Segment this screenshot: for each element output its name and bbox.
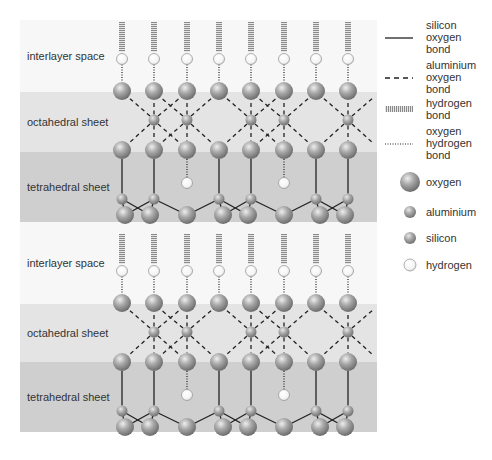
hydrogen-atom — [343, 54, 354, 65]
hydrogen-atom — [117, 54, 128, 65]
hydrogen-bond — [184, 234, 190, 264]
oxygen-atom — [178, 141, 196, 159]
legend-bond-label: hydrogen — [426, 137, 472, 149]
oxygen-atom — [178, 206, 196, 224]
oxygen-atom — [214, 418, 232, 436]
legend-bond-label: oxygen — [426, 31, 461, 43]
interlayer-label: interlayer space — [27, 50, 105, 62]
hydrogen-atom — [214, 54, 225, 65]
silicon-atom — [246, 406, 257, 417]
legend-oxygen-icon — [400, 172, 420, 192]
hydrogen-atom — [117, 266, 128, 277]
oxygen-atom — [141, 418, 159, 436]
oxygen-atom — [275, 294, 293, 312]
oxygen-atom — [307, 353, 325, 371]
clay-structure-diagram: interlayer spaceoctahedral sheettetrahed… — [0, 0, 492, 460]
octahedral-label: octahedral sheet — [27, 116, 108, 128]
oxygen-atom — [242, 141, 260, 159]
hydrogen-atom — [311, 266, 322, 277]
hydrogen-bond — [184, 22, 190, 52]
hydrogen-atom — [182, 54, 193, 65]
legend-atom-label: oxygen — [426, 176, 461, 188]
silicon-atom — [214, 406, 225, 417]
oxygen-atom — [145, 141, 163, 159]
silicon-atom — [343, 194, 354, 205]
tetrahedral-label: tetrahedral sheet — [27, 391, 110, 403]
oxygen-atom — [178, 294, 196, 312]
oxygen-atom — [113, 141, 131, 159]
oxygen-atom — [145, 82, 163, 100]
hydrogen-atom — [149, 266, 160, 277]
aluminium-atom — [182, 115, 193, 126]
oxygen-atom — [210, 141, 228, 159]
aluminium-atom — [246, 115, 257, 126]
hydrogen-bond — [216, 234, 222, 264]
hydrogen-bond — [345, 234, 351, 264]
silicon-atom — [311, 194, 322, 205]
aluminium-atom — [246, 327, 257, 338]
legend-atom-label: silicon — [426, 232, 457, 244]
legend-bond-label: hydrogen — [426, 97, 472, 109]
legend-bond-label: bond — [426, 43, 450, 55]
hydrogen-bond — [281, 234, 287, 264]
hydrogen-atom — [311, 54, 322, 65]
hydrogen-atom — [279, 178, 290, 189]
legend-atom-label: aluminium — [426, 206, 476, 218]
legend-bond-label: bond — [426, 109, 450, 121]
oxygen-atom — [145, 294, 163, 312]
hydrogen-bond — [248, 234, 254, 264]
oxygen-atom — [116, 418, 134, 436]
legend-bond-label: oxygen — [426, 71, 461, 83]
silicon-atom — [311, 406, 322, 417]
oxygen-atom — [275, 141, 293, 159]
legend-aluminium-icon — [404, 206, 416, 218]
hydrogen-bond — [151, 234, 157, 264]
oxygen-atom — [113, 294, 131, 312]
silicon-atom — [214, 194, 225, 205]
oxygen-atom — [307, 294, 325, 312]
silicon-atom — [246, 194, 257, 205]
oxygen-atom — [141, 206, 159, 224]
oxygen-atom — [275, 353, 293, 371]
oxygen-atom — [307, 141, 325, 159]
aluminium-atom — [149, 115, 160, 126]
hydrogen-atom — [279, 390, 290, 401]
oxygen-atom — [239, 418, 257, 436]
legend-bond-label: bond — [426, 149, 450, 161]
aluminium-atom — [182, 327, 193, 338]
oxygen-atom — [145, 353, 163, 371]
hydrogen-atom — [182, 266, 193, 277]
oxygen-atom — [178, 82, 196, 100]
oxygen-atom — [113, 353, 131, 371]
aluminium-atom — [279, 327, 290, 338]
oxygen-atom — [210, 294, 228, 312]
aluminium-atom — [279, 115, 290, 126]
octahedral-label: octahedral sheet — [27, 327, 108, 339]
hydrogen-bond — [313, 22, 319, 52]
legend-hydrogen-icon — [404, 259, 416, 271]
aluminium-atom — [343, 115, 354, 126]
hydrogen-bond — [119, 234, 125, 264]
oxygen-atom — [116, 206, 134, 224]
legend-bond-label: oxygen — [426, 125, 461, 137]
oxygen-atom — [336, 206, 354, 224]
oxygen-atom — [275, 418, 293, 436]
legend-bond-label: aluminium — [426, 59, 476, 71]
legend-silicon-icon — [404, 232, 416, 244]
oxygen-atom — [311, 418, 329, 436]
tetrahedral-label: tetrahedral sheet — [27, 181, 110, 193]
interlayer-label: interlayer space — [27, 257, 105, 269]
oxygen-atom — [239, 206, 257, 224]
hydrogen-bond — [281, 22, 287, 52]
oxygen-atom — [178, 353, 196, 371]
oxygen-atom — [307, 82, 325, 100]
aluminium-atom — [149, 327, 160, 338]
oxygen-atom — [339, 82, 357, 100]
hydrogen-bond — [248, 22, 254, 52]
legend-atom-label: hydrogen — [426, 259, 472, 271]
hydrogen-bond — [151, 22, 157, 52]
silicon-atom — [117, 194, 128, 205]
hydrogen-atom — [343, 266, 354, 277]
sheet-bands — [20, 20, 377, 432]
oxygen-atom — [339, 353, 357, 371]
